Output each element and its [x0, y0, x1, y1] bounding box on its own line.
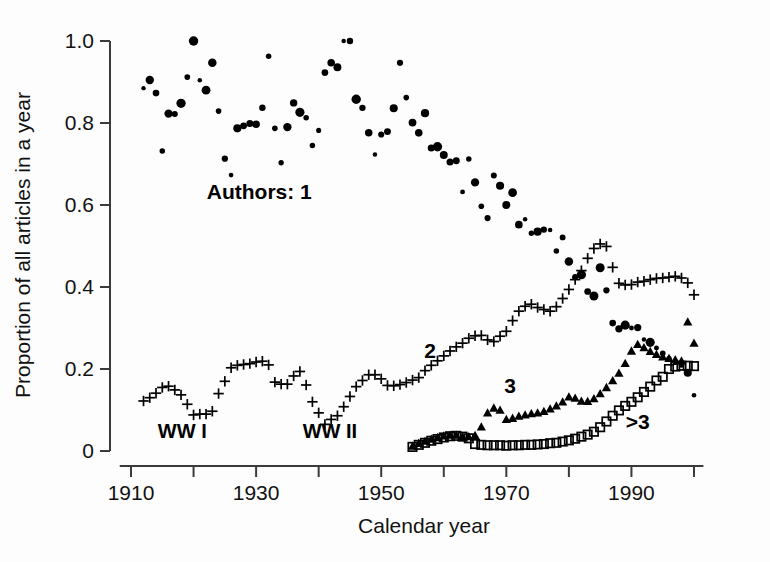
x-tick-label: 1970 — [483, 481, 530, 504]
annotation-authors-gt3: >3 — [626, 410, 650, 433]
series-1 — [141, 36, 696, 397]
y-tick-label: 0.6 — [65, 193, 94, 216]
chart-figure: 00.20.40.60.81.0 19101930195019701990 Au… — [0, 0, 770, 562]
y-tick-label: 0.4 — [65, 275, 95, 298]
series-gt3 — [408, 362, 698, 452]
chart-annotations: Authors: 123>3WW IWW II — [158, 180, 650, 442]
annotation-ww1: WW I — [158, 420, 207, 442]
annotation-authors-1: Authors: 1 — [207, 180, 312, 203]
y-tick-label: 0.8 — [65, 111, 94, 134]
annotation-ww2: WW II — [303, 420, 357, 442]
y-axis: 00.20.40.60.81.0 — [65, 29, 110, 462]
y-tick-label: 0 — [82, 439, 94, 462]
x-tick-label: 1910 — [108, 481, 155, 504]
x-tick-label: 1930 — [233, 481, 280, 504]
y-axis-title: Proportion of all articles in a year — [11, 92, 34, 398]
x-tick-label: 1990 — [608, 481, 655, 504]
y-tick-label: 0.2 — [65, 357, 94, 380]
series-2 — [138, 239, 699, 430]
data-series-layer — [138, 36, 699, 451]
annotation-authors-2: 2 — [424, 339, 436, 362]
y-tick-label: 1.0 — [65, 29, 94, 52]
x-axis: 19101930195019701990 — [108, 466, 704, 504]
x-axis-title: Calendar year — [358, 514, 490, 537]
x-tick-label: 1950 — [358, 481, 405, 504]
annotation-authors-3: 3 — [504, 374, 516, 397]
chart-canvas: 00.20.40.60.81.0 19101930195019701990 Au… — [0, 0, 770, 562]
